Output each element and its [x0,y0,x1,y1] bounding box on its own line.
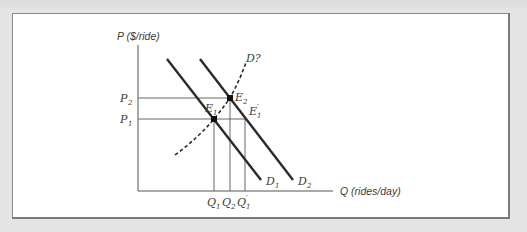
y-axis-label: P ($/ride) [117,30,160,42]
label-d-question: D? [245,52,261,65]
x-axis-label: Q (rides/day) [340,185,401,197]
label-p1: P 1 [119,113,132,128]
svg-text:P: P [119,113,128,126]
label-p2: P 2 [119,92,133,107]
point-e2 [227,95,233,101]
label-e1-prime: E 1 ′ [248,102,261,120]
svg-text:P: P [119,92,128,105]
svg-text:Q: Q [237,196,246,209]
svg-text:Q: Q [207,196,216,209]
svg-text:2: 2 [127,99,133,107]
svg-text:1: 1 [246,203,250,211]
svg-text:1: 1 [128,120,132,128]
label-q1-prime: Q 1 ′ [237,193,250,211]
svg-text:2: 2 [306,182,312,190]
svg-text:Q: Q [222,196,231,209]
svg-text:1: 1 [216,203,220,211]
svg-text:′: ′ [257,102,259,111]
label-q2: Q 2 [222,196,236,211]
demand-diagram: P ($/ride) Q (rides/day) P 2 P 1 Q 1 Q 2… [0,0,527,232]
svg-text:E: E [234,91,243,104]
svg-text:D: D [265,175,275,188]
svg-text:′: ′ [246,193,248,202]
svg-text:D: D [297,175,307,188]
svg-text:1: 1 [257,112,261,120]
svg-text:2: 2 [230,203,236,211]
svg-text:E: E [204,102,213,115]
label-e2: E 2 [234,91,248,106]
svg-text:2: 2 [242,98,248,106]
svg-text:1: 1 [213,109,217,117]
label-e1: E 1 [204,102,217,117]
label-q1: Q 1 [207,196,220,211]
label-d1: D 1 [265,175,279,190]
svg-text:1: 1 [275,182,279,190]
label-d2: D 2 [297,175,312,190]
svg-text:E: E [248,105,257,118]
